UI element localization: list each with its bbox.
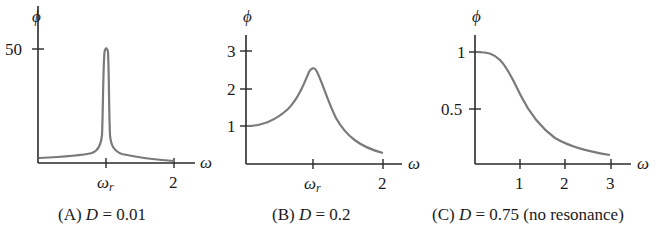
y-tick-label: 1 (227, 117, 236, 136)
caption-b: (B) D = 0.2 (272, 205, 351, 224)
response-curve (247, 68, 383, 153)
x-tick-label: 2 (378, 174, 387, 193)
y-tick-label: 50 (5, 40, 22, 59)
response-curve (39, 48, 174, 161)
y-tick-label: 0.5 (441, 100, 462, 119)
y-axis-label: ϕ (32, 7, 41, 26)
y-axis-label: ϕ (472, 7, 481, 26)
x-tick-label: 2 (560, 174, 569, 193)
caption-c: (C) D = 0.75 (no resonance) (432, 205, 624, 224)
x-tick-label: 1 (515, 174, 524, 193)
chart-panel-b: ϕ 3 2 1 ω ωr 2 (B) D = 0.2 (227, 7, 420, 224)
x-tick-label-omega-r: ωr (97, 173, 114, 194)
caption-a: (A) D = 0.01 (58, 205, 146, 224)
chart-panel-a: ϕ 50 ω ωr 2 (A) D = 0.01 (5, 6, 212, 224)
y-axis-label: ϕ (243, 7, 252, 26)
x-tick-label-omega-r: ωr (304, 174, 321, 195)
x-tick-label: 3 (606, 174, 615, 193)
resonance-charts: ϕ 50 ω ωr 2 (A) D = 0.01 ϕ 3 2 1 ω ωr 2 … (0, 0, 665, 236)
x-tick-label: 2 (169, 173, 178, 192)
y-tick-label: 1 (457, 43, 466, 62)
y-tick-label: 2 (227, 80, 236, 99)
x-axis-label: ω (200, 153, 212, 172)
y-tick-label: 3 (227, 42, 236, 61)
chart-panel-c: ϕ 1 0.5 ω 1 2 3 (C) D = 0.75 (no resonan… (432, 7, 649, 224)
x-axis-label: ω (637, 154, 649, 173)
x-axis-label: ω (408, 154, 420, 173)
response-curve (476, 52, 610, 155)
